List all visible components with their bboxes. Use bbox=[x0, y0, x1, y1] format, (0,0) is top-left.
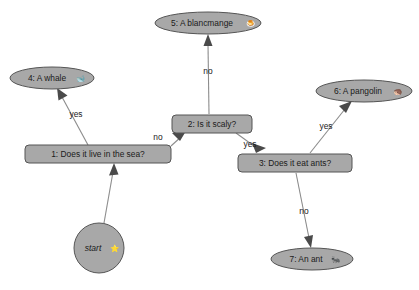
edge-2-to-5: no bbox=[203, 34, 213, 114]
edge-3-to-6: yes bbox=[310, 101, 352, 153]
node-label: 2: Is it scaly? bbox=[188, 119, 237, 129]
edge-label-no: no bbox=[299, 206, 309, 216]
edge-line bbox=[104, 172, 113, 223]
node-4-whale[interactable]: 4: A whale 🐋 bbox=[10, 67, 94, 89]
node-1-does-it-live-in-the-sea[interactable]: 1: Does it live in the sea? bbox=[25, 145, 171, 163]
pangolin-icon: 🦔 bbox=[393, 87, 402, 96]
arrow-head bbox=[204, 34, 213, 46]
node-2-is-it-scaly[interactable]: 2: Is it scaly? bbox=[172, 115, 252, 133]
start-icon: ⭐ bbox=[110, 244, 119, 253]
node-5-blancmange[interactable]: 5: A blancmange 🍮 bbox=[155, 12, 261, 34]
arrow-head bbox=[339, 101, 352, 113]
node-start[interactable]: start ⭐ bbox=[74, 223, 124, 273]
node-3-does-it-eat-ants[interactable]: 3: Does it eat ants? bbox=[238, 154, 352, 172]
node-label: 3: Does it eat ants? bbox=[259, 158, 332, 168]
edge-line bbox=[62, 97, 88, 145]
whale-icon: 🐋 bbox=[76, 74, 85, 83]
ant-icon: 🐜 bbox=[331, 255, 340, 264]
edge-label-no: no bbox=[203, 66, 213, 76]
node-label: 6: A pangolin bbox=[334, 86, 382, 96]
node-6-pangolin[interactable]: 6: A pangolin 🦔 bbox=[316, 80, 412, 102]
edge-label-no: no bbox=[153, 132, 163, 142]
start-label: start bbox=[85, 243, 102, 253]
arrow-head bbox=[109, 163, 119, 176]
edge-label-yes: yes bbox=[319, 121, 332, 131]
edge-start-to-1 bbox=[104, 163, 119, 223]
node-label: 4: A whale bbox=[28, 73, 67, 83]
node-label: 1: Does it live in the sea? bbox=[51, 149, 145, 159]
node-label: 5: A blancmange bbox=[171, 18, 233, 28]
arrow-head bbox=[304, 235, 313, 248]
node-label: 7: An ant bbox=[289, 254, 323, 264]
edge-2-to-3: yes bbox=[236, 133, 266, 153]
edge-1-to-4: yes bbox=[57, 88, 88, 145]
decision-tree-graph: yes no no yes bbox=[0, 0, 419, 290]
arrow-head bbox=[57, 88, 68, 101]
edge-layer: yes no no yes bbox=[57, 34, 352, 248]
edge-line bbox=[208, 44, 209, 114]
edge-3-to-7: no bbox=[296, 173, 313, 248]
blancmange-icon: 🍮 bbox=[246, 19, 255, 28]
diagram-canvas: yes no no yes bbox=[0, 0, 419, 290]
edge-label-yes: yes bbox=[69, 109, 82, 119]
edge-label-yes: yes bbox=[243, 139, 256, 149]
node-layer: 5: A blancmange 🍮 4: A whale 🐋 6: A pang… bbox=[10, 12, 412, 273]
node-7-an-ant[interactable]: 7: An ant 🐜 bbox=[271, 248, 353, 270]
